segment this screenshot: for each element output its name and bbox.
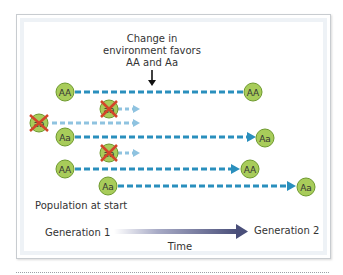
genotype-circle-eliminated: aa xyxy=(30,114,48,132)
generation2-label: Generation 2 xyxy=(254,225,319,236)
arrowhead-icon xyxy=(133,119,140,127)
lineage-row-5: aa xyxy=(100,144,140,162)
svg-text:Aa: Aa xyxy=(59,133,71,143)
arrowhead-icon xyxy=(247,132,256,142)
genotype-circle: AA xyxy=(56,83,74,101)
annotation: Change in environment favors AA and Aa xyxy=(103,33,201,86)
genotype-circle-gen2: AA xyxy=(244,83,262,101)
genotype-circle: Aa xyxy=(99,177,117,195)
genotype-circle-gen2: Aa xyxy=(256,129,274,147)
time-label: Time xyxy=(167,241,192,252)
svg-text:Aa: Aa xyxy=(102,182,114,192)
genotype-circle-gen2: AA xyxy=(241,160,259,178)
svg-text:AA: AA xyxy=(59,165,72,175)
lineage-row-3: aa xyxy=(30,114,140,132)
arrowhead-icon xyxy=(287,181,296,191)
lineage-row-4: Aa Aa xyxy=(56,128,274,147)
annotation-line-1: Change in xyxy=(127,33,178,44)
natural-selection-diagram: Change in environment favors AA and Aa A… xyxy=(0,0,343,275)
lineage-row-7: Aa Aa xyxy=(99,177,315,196)
svg-text:Aa: Aa xyxy=(300,183,312,193)
genotype-circle-eliminated: aa xyxy=(100,100,118,118)
genotype-circle-gen2: Aa xyxy=(297,178,315,196)
svg-text:AA: AA xyxy=(244,165,257,175)
population-label: Population at start xyxy=(35,200,127,211)
lineage-row-2: aa xyxy=(100,100,140,118)
svg-text:AA: AA xyxy=(59,88,72,98)
svg-text:AA: AA xyxy=(247,88,260,98)
lineage-row-1: AA AA xyxy=(56,83,262,101)
genotype-circle: Aa xyxy=(56,128,74,146)
arrowhead-icon xyxy=(133,149,140,157)
time-arrow xyxy=(114,224,248,239)
divider-dotted xyxy=(16,272,329,273)
svg-text:Aa: Aa xyxy=(259,134,271,144)
down-arrow-icon xyxy=(148,70,156,86)
lineage-row-6: AA AA xyxy=(56,160,259,178)
arrowhead-icon xyxy=(133,105,140,113)
arrowhead-icon xyxy=(231,164,240,174)
annotation-line-3: AA and Aa xyxy=(126,57,178,68)
annotation-line-2: environment favors xyxy=(103,45,201,56)
generation1-label: Generation 1 xyxy=(45,227,110,238)
genotype-circle-eliminated: aa xyxy=(100,144,118,162)
genotype-circle: AA xyxy=(56,160,74,178)
